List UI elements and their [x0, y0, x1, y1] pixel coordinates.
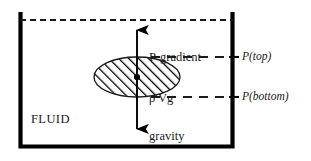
p-top-label: P(top)	[242, 50, 271, 62]
buoyancy-force-diagram: P-gradient ρ′Vg gravity ρVg P(top) P(bot…	[0, 0, 311, 161]
center-of-mass-dot	[134, 74, 140, 80]
fluid-label: FLUID	[31, 113, 70, 127]
gravity-label: gravity ρVg	[149, 103, 184, 161]
gravity-name: gravity	[149, 130, 184, 144]
p-bottom-label: P(bottom)	[242, 90, 289, 102]
pressure-gradient-name: P-gradient	[149, 51, 201, 65]
